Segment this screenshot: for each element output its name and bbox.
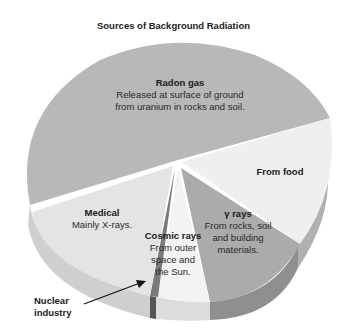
cosmic-desc-2: space and [151, 254, 195, 265]
gamma-desc-1: From rocks, soil [204, 220, 271, 231]
cosmic-desc-1: From outer [150, 242, 196, 253]
gamma-desc-2: and building [212, 232, 263, 243]
radon-title: Radon gas [95, 77, 265, 89]
medical-title: Medical [60, 207, 144, 219]
radon-desc-1: Released at surface of ground [116, 89, 243, 100]
cosmic-title: Cosmic rays [140, 230, 206, 242]
gamma-title: γ rays [198, 208, 278, 220]
label-radon: Radon gas Released at surface of ground … [95, 77, 265, 113]
label-food: From food [240, 166, 320, 178]
food-title: From food [240, 166, 320, 178]
label-cosmic: Cosmic rays From outer space and the Sun… [140, 230, 206, 278]
label-medical: Medical Mainly X-rays. [60, 207, 144, 231]
nuclear-line-2: industry [34, 307, 71, 318]
radon-desc-2: from uranium in rocks and soil. [115, 101, 244, 112]
cosmic-desc-3: the Sun. [155, 266, 190, 277]
label-gamma: γ rays From rocks, soil and building mat… [198, 208, 278, 256]
label-nuclear: Nuclear industry [34, 295, 84, 319]
nuclear-line-1: Nuclear [34, 295, 69, 306]
gamma-desc-3: materials. [217, 244, 258, 255]
medical-desc: Mainly X-rays. [72, 219, 132, 230]
